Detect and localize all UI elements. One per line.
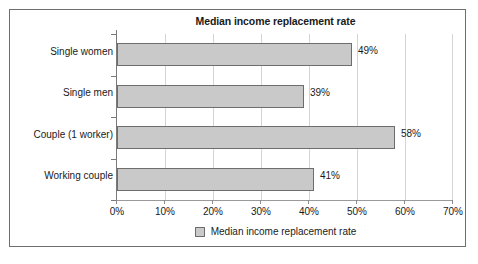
x-axis-label-10: 10% xyxy=(155,206,175,217)
x-axis-label-30: 30% xyxy=(251,206,271,217)
chart-title: Median income replacement rate xyxy=(10,15,465,27)
category-axis: Single women Single men Couple (1 worker… xyxy=(10,34,113,200)
x-tick-0 xyxy=(116,200,117,204)
bar-value-couple-1-worker: 58% xyxy=(401,128,421,139)
bar-slot-working-couple: 41% xyxy=(117,159,453,201)
bar-value-single-women: 49% xyxy=(358,45,378,56)
x-axis-label-40: 40% xyxy=(299,206,319,217)
bar-slot-single-men: 39% xyxy=(117,76,453,118)
bar-couple-1-worker[interactable] xyxy=(117,126,395,149)
x-axis-label-0: 0% xyxy=(110,206,124,217)
x-tick-20 xyxy=(212,200,213,204)
chart-frame: Median income replacement rate Single wo… xyxy=(9,9,466,247)
x-tick-60 xyxy=(404,200,405,204)
category-axis-line xyxy=(116,200,453,201)
legend-label: Median income replacement rate xyxy=(211,226,357,237)
chart-title-text: Median income replacement rate xyxy=(196,15,356,27)
bar-slot-couple-1-worker: 58% xyxy=(117,117,453,159)
bar-slot-single-women: 49% xyxy=(117,34,453,76)
x-tick-50 xyxy=(356,200,357,204)
bar-single-women[interactable] xyxy=(117,43,352,66)
x-axis-label-70: 70% xyxy=(443,206,463,217)
x-tick-70 xyxy=(452,200,453,204)
x-tick-10 xyxy=(164,200,165,204)
bar-value-single-men: 39% xyxy=(310,87,330,98)
category-label-single-men: Single men xyxy=(13,87,113,98)
bar-single-men[interactable] xyxy=(117,85,304,108)
chart-legend: Median income replacement rate xyxy=(10,226,465,237)
x-tick-40 xyxy=(308,200,309,204)
legend-swatch-icon xyxy=(195,227,205,237)
bar-value-working-couple: 41% xyxy=(320,170,340,181)
x-axis-label-20: 20% xyxy=(203,206,223,217)
x-axis-label-60: 60% xyxy=(395,206,415,217)
x-axis-label-50: 50% xyxy=(347,206,367,217)
category-label-single-women: Single women xyxy=(13,46,113,57)
plot-area: 49% 39% 58% 41% xyxy=(117,34,453,200)
category-label-couple-1-worker: Couple (1 worker) xyxy=(13,129,113,140)
bar-working-couple[interactable] xyxy=(117,168,314,191)
x-tick-30 xyxy=(260,200,261,204)
category-label-working-couple: Working couple xyxy=(13,170,113,181)
